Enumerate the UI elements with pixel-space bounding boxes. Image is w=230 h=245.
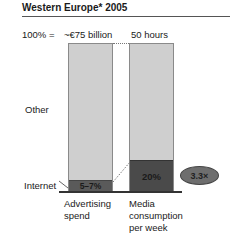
bar-advertising-spend: 5–7% [68,43,113,192]
multiplier-oval: 3.3× [180,166,219,185]
legend-other: Other [25,104,49,115]
title-rule [22,16,230,17]
category-label-media: Media consumption per week [129,198,183,234]
value-label-media-internet: 20% [142,171,161,182]
total-prefix: 100% = [22,29,55,40]
baseline [59,191,182,193]
right-total-label: 50 hours [131,29,168,40]
chart-title: Western Europe* 2005 [22,2,127,13]
segment-internet-media: 20% [130,160,173,191]
internet-leader-line [58,180,70,190]
segment-internet-advertising: 5–7% [69,180,112,191]
category-label-advertising: Advertising spend [64,198,111,222]
left-total-label: ~€75 billion [64,29,112,40]
legend-internet: Internet [24,180,56,191]
value-label-advertising-internet: 5–7% [80,181,102,191]
bar-media-consumption: 20% [129,43,174,192]
internet-connector [112,160,132,184]
top-connector [113,43,129,44]
